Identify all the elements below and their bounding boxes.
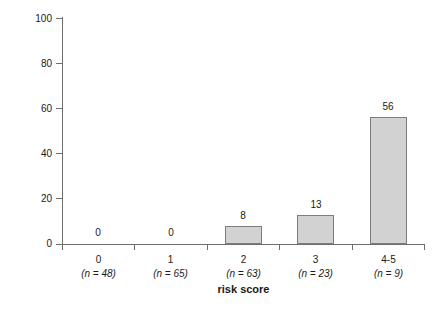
x-tick-mark-1 [134,245,135,250]
x-category-label-2: 2 (n = 63) [207,254,280,280]
x-axis-line [62,244,425,245]
x-tick-mark-3 [279,245,280,250]
x-tick-mark-4 [352,245,353,250]
y-tick-label-40: 40 [14,149,52,159]
x-category-name-4: 4-5 [381,254,395,265]
bar-3 [297,215,334,244]
x-category-name-0: 0 [96,254,102,265]
bar-value-2: 8 [224,211,262,221]
x-category-n-1: (n = 65) [134,268,207,280]
y-tick-label-100: 100 [14,14,52,24]
x-tick-mark-2 [207,245,208,250]
bar-4 [370,117,407,244]
x-category-label-3: 3 (n = 23) [279,254,352,280]
y-tick-label-0: 0 [14,239,52,249]
x-category-label-4: 4-5 (n = 9) [352,254,425,280]
bar-value-0: 0 [79,228,117,238]
bar-value-4: 56 [369,102,407,112]
x-tick-mark-5 [424,245,425,250]
x-category-name-1: 1 [168,254,174,265]
x-category-n-4: (n = 9) [352,268,425,280]
y-axis-line [62,17,63,245]
bar-value-3: 13 [297,200,335,210]
x-category-label-0: 0 (n = 48) [62,254,135,280]
x-category-name-2: 2 [241,254,247,265]
y-tick-label-20: 20 [14,194,52,204]
x-category-n-3: (n = 23) [279,268,352,280]
x-category-n-2: (n = 63) [207,268,280,280]
x-category-n-0: (n = 48) [62,268,135,280]
x-category-name-3: 3 [313,254,319,265]
y-tick-label-80: 80 [14,59,52,69]
bar-chart: in-hospital mortality (%) 100 80 60 40 2… [0,0,444,310]
x-category-label-1: 1 (n = 65) [134,254,207,280]
bar-2 [225,226,262,244]
bar-value-1: 0 [152,228,190,238]
x-tick-mark-0 [62,245,63,250]
x-axis-title: risk score [62,283,425,295]
y-tick-label-60: 60 [14,104,52,114]
